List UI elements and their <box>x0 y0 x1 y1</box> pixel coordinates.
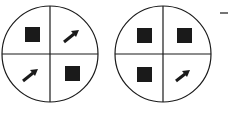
arrow-up-right-icon <box>64 30 79 42</box>
quadrant-pattern-diagram <box>0 0 228 120</box>
circle-2 <box>115 6 211 102</box>
circle-1 <box>2 6 98 102</box>
arrow-up-right-icon <box>23 69 38 81</box>
square-icon <box>137 28 152 43</box>
square-icon <box>137 67 152 82</box>
square-icon <box>25 27 40 42</box>
square-icon <box>65 66 80 81</box>
square-icon <box>177 28 192 43</box>
arrow-up-right-icon <box>176 70 190 81</box>
